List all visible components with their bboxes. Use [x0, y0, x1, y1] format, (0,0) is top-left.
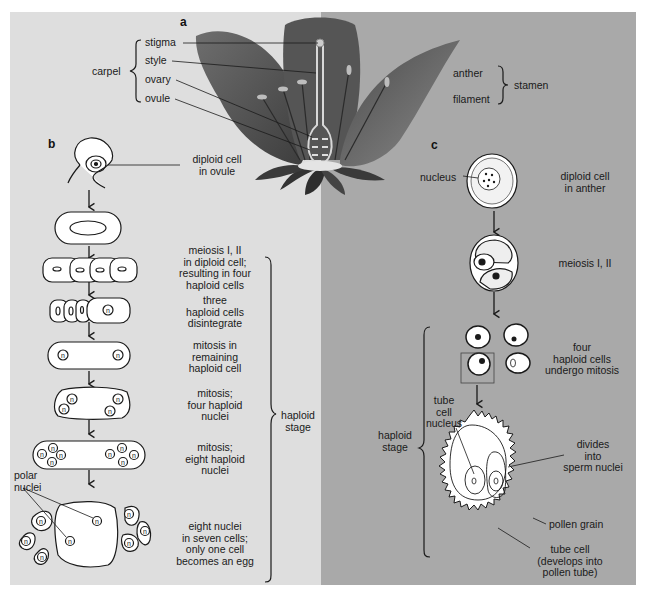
step-b6-label: mitosis; eight haploid nuclei [165, 442, 265, 477]
step-b1-label: diploid cell in ovule [172, 154, 262, 177]
filament-label: filament [453, 94, 490, 106]
divides-into-sperm-label: divides into sperm nuclei [553, 439, 633, 474]
panel-label-b: b [48, 137, 55, 151]
anther-label: anther [453, 68, 483, 80]
step-c2-label: meiosis I, II [545, 258, 625, 270]
nucleus-label: nucleus [420, 172, 456, 184]
polar-nuclei-label: polar nuclei [14, 470, 41, 493]
step-c1-label: diploid cell in anther [545, 171, 625, 194]
step-b7-label: eight nuclei in seven cells; only one ce… [165, 521, 265, 567]
stamen-brace [498, 66, 508, 104]
style-label: style [145, 55, 167, 67]
step-b5-label: mitosis; four haploid nuclei [165, 388, 265, 423]
step-c3-label: four haploid cells undergo mitosis [532, 342, 632, 377]
step-b4-label: mitosis in remaining haploid cell [165, 340, 265, 375]
haploid-brace-c [419, 327, 430, 557]
stamen-label: stamen [514, 80, 548, 92]
ovary-label: ovary [145, 74, 171, 86]
haploid-stage-b-label: haploid stage [276, 410, 320, 433]
carpel-label: carpel [92, 66, 121, 78]
haploid-brace-b [265, 257, 276, 582]
step-b2-label: meiosis I, II in diploid cell; resulting… [165, 245, 265, 291]
carpel-brace [130, 40, 141, 102]
haploid-stage-c-label: haploid stage [370, 430, 420, 453]
ovule-label: ovule [145, 93, 170, 105]
pollen-grain-label: pollen grain [549, 519, 603, 531]
tube-cell-nucleus-label: tube cell nucleus [424, 395, 464, 430]
stigma-label: stigma [145, 37, 176, 49]
panel-label-a: a [180, 15, 187, 29]
tube-cell-label: tube cell (develops into pollen tube) [520, 544, 620, 579]
panel-label-c: c [431, 138, 438, 152]
step-b3-label: three haploid cells disintegrate [165, 295, 265, 330]
